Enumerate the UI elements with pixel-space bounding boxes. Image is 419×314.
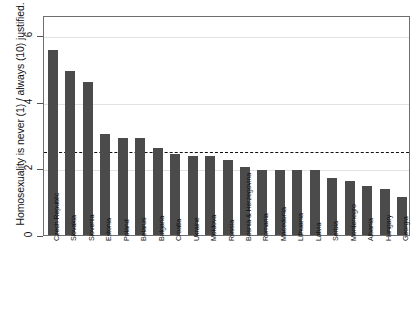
gridline [44,104,409,105]
x-tick-label: Bosnia & Herzegovina [238,239,250,251]
x-tick-label: Montenegro [343,239,355,251]
x-tick-text: Belarus [139,218,148,241]
reference-line [44,152,409,153]
x-tick-text: Slovakia [69,215,78,241]
bar [65,71,75,235]
x-tick-text: Bosnia & Herzegovina [244,173,253,241]
plot-area [43,16,410,236]
x-tick-label: Estonia [98,239,110,251]
x-tick-text: Ukraine [192,217,201,241]
x-tick-text: Macedonia [279,207,288,241]
x-tick-label: Moldova [203,239,215,251]
x-tick-text: Serbia [331,221,340,241]
x-tick-text: Moldova [209,215,218,241]
x-tick-label: Georgia [395,239,407,251]
x-tick-label: Macedonia [273,239,285,251]
x-tick-label: Poland [116,239,128,251]
x-tick-label: Czech Republic [46,239,58,251]
y-tick-label: 0 [22,229,36,240]
y-tick-label: 2 [22,162,36,173]
x-tick-label: Lithuania [290,239,302,251]
x-tick-text: Lithuania [296,213,305,241]
x-tick-text: Bulgaria [157,216,166,241]
x-tick-label: Belarus [133,239,145,251]
x-tick-label: Croatia [168,239,180,251]
y-tick-label: 4 [22,96,36,107]
y-tick-label: 6 [22,29,36,40]
x-tick-text: Croatia [174,219,183,241]
x-tick-label: Hungary [378,239,390,251]
x-tick-text: Czech Republic [52,193,61,241]
x-tick-text: Latvia [314,223,323,241]
x-tick-text: Romania [261,213,270,241]
x-tick-label: Ukraine [186,239,198,251]
x-tick-text: Hungary [384,215,393,241]
x-tick-label: Slovenia [81,239,93,251]
x-tick-text: Slovenia [87,215,96,241]
x-tick-text: Georgia [401,216,410,241]
x-tick-label: Russia [221,239,233,251]
x-tick-label: Romania [255,239,267,251]
bar [83,82,93,235]
x-tick-text: Estonia [104,218,113,241]
x-tick-text: Albania [366,218,375,241]
x-tick-label: Albania [360,239,372,251]
x-tick-label: Slovakia [63,239,75,251]
x-tick-label: Latvia [308,239,320,251]
x-tick-label: Bulgaria [151,239,163,251]
x-tick-text: Poland [122,220,131,241]
x-tick-text: Montenegro [349,204,358,241]
x-tick-text: Russia [227,220,236,241]
y-tick-mark [37,236,43,237]
gridline [44,37,409,38]
y-axis-title-container: Homosexuality is never (1) / always (10)… [0,0,20,240]
chart-figure: Homosexuality is never (1) / always (10)… [0,0,419,314]
x-tick-label: Serbia [325,239,337,251]
